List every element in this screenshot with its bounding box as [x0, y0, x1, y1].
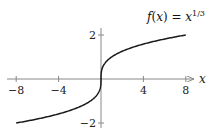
x-tick-label: −8 [8, 84, 24, 97]
x-tick-label: 4 [140, 84, 147, 97]
x-tick-label: 8 [182, 84, 189, 97]
x-axis-label: x [199, 72, 206, 86]
chart-title: f(x) = x1/3 [146, 9, 205, 24]
cube-root-chart: −8−448 −22 x f(x) = x1/3 [0, 0, 217, 133]
y-tick-label: 2 [89, 29, 96, 42]
y-tick-label: −2 [80, 117, 96, 130]
x-tick-label: −4 [50, 84, 66, 97]
